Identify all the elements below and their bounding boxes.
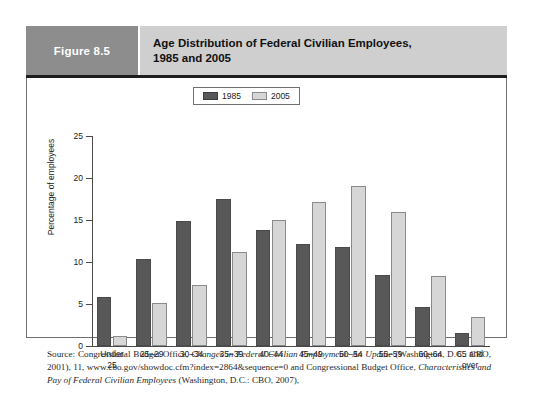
bar-1985[interactable] — [455, 333, 470, 346]
y-axis-title: Percentage of employees — [46, 117, 56, 257]
bar-1985[interactable] — [256, 230, 271, 346]
figure-title-line-1: Age Distribution of Federal Civilian Emp… — [153, 37, 412, 49]
bar-group — [97, 136, 128, 346]
figure-container: Figure 8.5 Age Distribution of Federal C… — [26, 26, 507, 338]
bar-2005[interactable] — [272, 220, 287, 346]
bar-group — [176, 136, 207, 346]
y-axis-tick-label: 10 — [59, 257, 83, 267]
bar-2005[interactable] — [431, 276, 446, 346]
legend-label: 1985 — [222, 91, 241, 101]
figure-title-line-2: 1985 and 2005 — [153, 52, 231, 64]
figure-header: Figure 8.5 Age Distribution of Federal C… — [26, 26, 507, 78]
bar-group — [335, 136, 366, 346]
x-axis-line — [92, 346, 490, 347]
bar-2005[interactable] — [351, 186, 366, 346]
bar-1985[interactable] — [335, 247, 350, 346]
bar-chart: Percentage of employees 0510152025 19852… — [27, 78, 506, 336]
source-suffix: (Washington, D.C.: CBO, 2007), — [176, 375, 299, 385]
bar-2005[interactable] — [232, 252, 247, 346]
bar-group — [216, 136, 247, 346]
y-axis-tick-mark — [86, 346, 92, 347]
figure-number-block: Figure 8.5 — [26, 26, 140, 75]
bar-2005[interactable] — [471, 317, 486, 346]
legend-label: 2005 — [271, 91, 290, 101]
bar-2005[interactable] — [312, 202, 327, 346]
bar-1985[interactable] — [216, 199, 231, 346]
y-axis-tick-label: 20 — [59, 173, 83, 183]
y-axis-tick-label: 5 — [59, 299, 83, 309]
figure-title-block: Age Distribution of Federal Civilian Emp… — [140, 26, 507, 75]
bar-1985[interactable] — [176, 221, 191, 346]
y-axis-tick-label: 25 — [59, 131, 83, 141]
bar-group — [296, 136, 327, 346]
y-axis-tick-label: 15 — [59, 215, 83, 225]
chart-panel: Percentage of employees 0510152025 19852… — [26, 78, 507, 338]
bar-1985[interactable] — [97, 297, 112, 346]
figure-title: Age Distribution of Federal Civilian Emp… — [153, 36, 412, 66]
bars-layer — [92, 136, 490, 346]
legend-item-1985[interactable]: 1985 — [203, 91, 241, 101]
bar-2005[interactable] — [113, 336, 128, 346]
legend-swatch-icon — [203, 92, 218, 100]
bar-group — [136, 136, 167, 346]
source-note: Source: Congressional Budget Office, Cha… — [47, 348, 491, 388]
legend-swatch-icon — [252, 92, 267, 100]
bar-1985[interactable] — [415, 307, 430, 346]
bar-group — [256, 136, 287, 346]
bar-group — [455, 136, 486, 346]
bar-2005[interactable] — [391, 212, 406, 346]
bar-2005[interactable] — [152, 303, 167, 346]
legend-item-2005[interactable]: 2005 — [252, 91, 290, 101]
source-title-1: Changes in Federal Civilian Employment: … — [191, 349, 392, 359]
bar-group — [415, 136, 446, 346]
chart-legend: 19852005 — [193, 87, 300, 105]
bar-2005[interactable] — [192, 285, 207, 346]
bar-group — [375, 136, 406, 346]
figure-number-label: Figure 8.5 — [54, 45, 110, 57]
source-prefix: Source: Congressional Budget Office, — [47, 349, 191, 359]
bar-1985[interactable] — [136, 259, 151, 346]
bar-1985[interactable] — [375, 275, 390, 346]
bar-1985[interactable] — [296, 244, 311, 346]
